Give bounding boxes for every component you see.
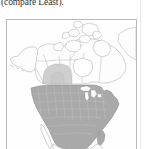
map-region-contiguous-us xyxy=(31,85,119,149)
page-edge-rule xyxy=(140,0,141,149)
caption-clip: (compare Least). xyxy=(0,0,144,12)
alaska-outline xyxy=(10,47,38,72)
arctic-island-e xyxy=(74,21,83,28)
north-america-map xyxy=(7,20,136,149)
caption-text: (compare Least). xyxy=(1,0,64,8)
page-root: (compare Least). xyxy=(0,0,144,149)
figure-frame xyxy=(6,19,137,149)
arctic-island-d xyxy=(93,31,102,39)
